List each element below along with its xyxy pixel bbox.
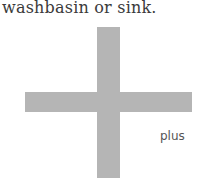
caption-text: washbasin or sink. [2,0,157,19]
symbol-label: plus [160,128,185,144]
plus-horizontal-bar [25,92,192,112]
